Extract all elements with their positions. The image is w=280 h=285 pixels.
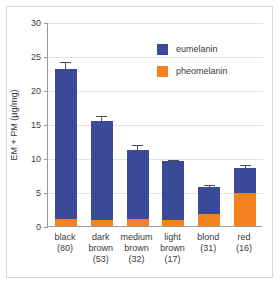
gridline [48,159,263,160]
bar-group[interactable] [234,168,256,226]
bar-segment-eumelanin[interactable] [127,150,149,219]
bar-segment-eumelanin[interactable] [91,121,113,220]
legend-swatch [157,44,168,55]
chart-legend: eumelaninpheomelanin [157,42,228,86]
x-axis-tick-label-line: (16) [214,243,274,254]
legend-swatch [157,66,168,77]
y-axis-tick [44,91,48,92]
bar-group[interactable] [198,187,220,226]
y-axis-tick-label: 5 [36,189,41,198]
bar-segment-pheomelanin[interactable] [198,214,220,226]
y-axis-tick-label: 10 [31,155,41,164]
y-axis-tick [44,159,48,160]
legend-item[interactable]: pheomelanin [157,64,228,79]
x-axis-tick-label-line: red [214,232,274,243]
y-axis-tick [44,227,48,228]
bar-group[interactable] [55,69,77,226]
x-axis-tick-label-line: (17) [142,254,202,265]
bar-segment-eumelanin[interactable] [198,187,220,214]
bar-segment-eumelanin[interactable] [234,168,256,193]
y-axis-tick-label: 30 [31,19,41,28]
y-axis-tick [44,125,48,126]
bar-segment-eumelanin[interactable] [55,69,77,219]
legend-item[interactable]: eumelanin [157,42,228,57]
y-axis-tick-label: 15 [31,121,41,130]
bar-segment-pheomelanin[interactable] [127,219,149,226]
y-axis-tick-label: 0 [36,223,41,232]
error-bar-cap [60,62,71,63]
y-axis-tick-label: 20 [31,87,41,96]
error-bar-cap [132,145,143,146]
legend-label: eumelanin [176,45,218,54]
plot-area: 051015202530 [47,23,262,227]
bar-segment-pheomelanin[interactable] [234,193,256,226]
error-bar-cap [96,116,107,117]
bar-group[interactable] [127,150,149,226]
y-axis-tick [44,57,48,58]
bar-group[interactable] [91,121,113,226]
error-bar-cap [168,160,179,161]
error-bar-stem [65,62,66,69]
gridline [48,91,263,92]
gridline [48,193,263,194]
error-bar-cap [204,185,215,186]
bar-segment-eumelanin[interactable] [162,161,184,219]
y-axis-tick [44,23,48,24]
y-axis-label: EM + PM (µg/mg) [10,90,19,161]
bar-segment-pheomelanin[interactable] [162,220,184,226]
gridline [48,125,263,126]
bar-segment-pheomelanin[interactable] [55,219,77,226]
x-axis-tick-label: red(16) [214,232,274,254]
y-axis-tick [44,193,48,194]
bar-group[interactable] [162,161,184,226]
gridline [48,23,263,24]
y-axis-tick-label: 25 [31,53,41,62]
legend-label: pheomelanin [176,67,228,76]
bar-segment-pheomelanin[interactable] [91,220,113,226]
gridline [48,57,263,58]
chart-figure: EM + PM (µg/mg) 051015202530 black(80)da… [0,0,280,285]
error-bar-cap [240,165,251,166]
